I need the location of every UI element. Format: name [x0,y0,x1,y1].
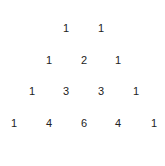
cell-r3-c3: 4 [110,117,126,129]
cell-r3-c4: 1 [146,117,162,129]
cell-r3-c2: 6 [76,117,92,129]
cell-r2-c0: 1 [24,85,40,97]
cell-r1-c1: 2 [76,54,92,66]
cell-r0-c0: 1 [58,22,74,34]
cell-r3-c1: 4 [41,117,57,129]
cell-r2-c3: 1 [128,85,144,97]
cell-r2-c2: 3 [93,85,109,97]
cell-r0-c1: 1 [93,22,109,34]
cell-r3-c0: 1 [6,117,22,129]
cell-r1-c2: 1 [110,54,126,66]
cell-r1-c0: 1 [41,54,57,66]
cell-r2-c1: 3 [58,85,74,97]
